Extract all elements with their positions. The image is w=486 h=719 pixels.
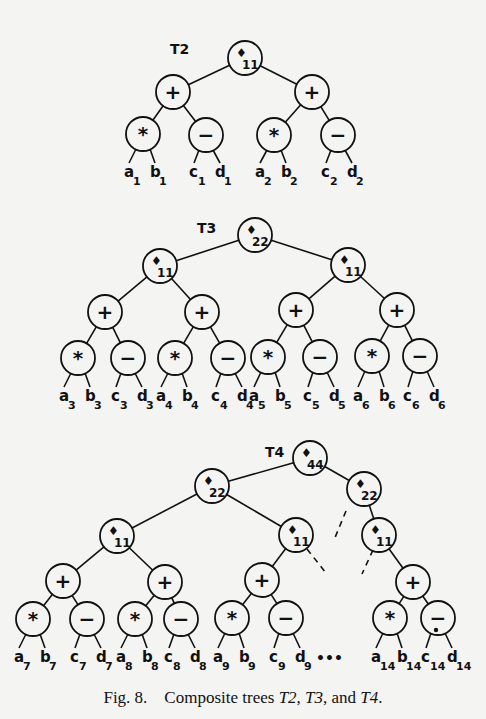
- leaf-c7: c: [70, 648, 79, 666]
- leaf-subscript: 3: [68, 399, 76, 412]
- caption-t3: T3: [305, 688, 323, 707]
- leaf-subscript: 5: [284, 399, 292, 412]
- minus-node-symbol: −: [173, 607, 190, 631]
- caption-sep: , and: [323, 688, 360, 707]
- leaf-subscript: 3: [120, 399, 128, 412]
- leaf-c14: c: [421, 648, 430, 666]
- leaf-subscript: 7: [105, 660, 113, 673]
- leaf-subscript: 7: [23, 660, 31, 673]
- leaf-subscript: 14: [406, 660, 422, 673]
- plus-node-symbol: +: [405, 570, 422, 594]
- leaf-c9: c: [269, 648, 278, 666]
- leaf-c1: c: [189, 163, 198, 181]
- leaf-subscript: 5: [312, 399, 320, 412]
- leaf-subscript: 14: [456, 660, 472, 673]
- multiply-node-symbol: *: [263, 345, 274, 369]
- minus-node-symbol: −: [120, 346, 137, 370]
- multiply-node-symbol: *: [367, 344, 378, 368]
- tree-label: T3: [197, 220, 216, 236]
- caption-end: .: [378, 688, 382, 707]
- plus-node-symbol: +: [194, 300, 211, 324]
- tree-label: T4: [265, 444, 285, 460]
- leaf-c2: c: [321, 163, 330, 181]
- leaf-c8: c: [164, 648, 173, 666]
- phi-index: 11: [345, 265, 362, 279]
- leaf-subscript: 1: [224, 175, 232, 188]
- leaf-subscript: 2: [290, 175, 298, 188]
- minus-node-symbol: −: [312, 345, 329, 369]
- leaf-subscript: 7: [49, 660, 57, 673]
- leaf-subscript: 8: [151, 660, 159, 673]
- caption-sep: ,: [297, 688, 306, 707]
- phi-index: 11: [242, 58, 259, 72]
- leaf-subscript: 2: [356, 175, 364, 188]
- phi-index: 44: [307, 458, 324, 472]
- multiply-node-symbol: *: [170, 346, 181, 370]
- multiply-node-symbol: *: [28, 607, 39, 631]
- plus-node-symbol: +: [157, 570, 174, 594]
- leaf-subscript: 9: [248, 660, 256, 673]
- multiply-node-symbol: *: [138, 122, 149, 146]
- leaf-subscript: 4: [191, 399, 199, 412]
- leaf-subscript: 9: [304, 660, 312, 673]
- multiply-node-symbol: *: [73, 346, 84, 370]
- leaf-subscript: 1: [159, 175, 167, 188]
- leaf-subscript: 1: [133, 175, 141, 188]
- multiply-node-symbol: *: [385, 606, 396, 630]
- phi-index: 22: [209, 486, 226, 500]
- leaf-subscript: 6: [362, 399, 370, 412]
- tree-label: T2: [170, 41, 189, 57]
- minus-node-symbol: −: [412, 344, 429, 368]
- caption-prefix: Fig. 8.: [103, 688, 147, 707]
- phi-index: 11: [376, 535, 393, 549]
- caption-t4: T4: [360, 688, 378, 707]
- figure-caption: Fig. 8. Composite trees T2, T3, and T4.: [0, 688, 486, 708]
- leaf-subscript: 14: [430, 660, 446, 673]
- leaf-subscript: 8: [125, 660, 133, 673]
- leaf-subscript: 8: [199, 660, 207, 673]
- leaf-subscript: 6: [412, 399, 420, 412]
- leaf-subscript: 4: [220, 399, 228, 412]
- phi-index: 22: [361, 489, 378, 503]
- leaf-subscript: 9: [278, 660, 286, 673]
- composite-trees-figure: T2♦11+*−a1b1c1d1+*−a2b2c2d2T3♦22♦11♦11+*…: [0, 0, 486, 719]
- plus-node-symbol: +: [389, 298, 406, 322]
- minus-node-symbol: −: [79, 607, 96, 631]
- caption-text: Composite trees: [164, 688, 278, 707]
- plus-node-symbol: +: [165, 80, 182, 104]
- leaf-c3: c: [111, 387, 120, 405]
- plus-node-symbol: +: [55, 569, 72, 593]
- leaf-c4: c: [211, 387, 220, 405]
- leaf-subscript: 9: [222, 660, 230, 673]
- leaf-subscript: 7: [79, 660, 87, 673]
- minus-node-symbol: −: [220, 346, 237, 370]
- leaf-subscript: 2: [330, 175, 338, 188]
- leaf-subscript: 8: [173, 660, 181, 673]
- leaf-subscript: 3: [146, 399, 154, 412]
- leaf-c5: c: [303, 387, 312, 405]
- minus-node-symbol: −: [278, 606, 295, 630]
- leaf-subscript: 6: [438, 399, 446, 412]
- minus-node-symbol: −: [198, 123, 215, 147]
- multiply-node-symbol: *: [269, 123, 280, 147]
- minus-node-symbol: −: [430, 606, 447, 630]
- plus-node-symbol: +: [304, 80, 321, 104]
- phi-index: 11: [157, 266, 174, 280]
- multiply-node-symbol: *: [227, 606, 238, 630]
- plus-node-symbol: +: [97, 300, 114, 324]
- leaf-subscript: 1: [198, 175, 206, 188]
- phi-index: 11: [293, 535, 310, 549]
- leaf-subscript: 3: [94, 399, 102, 412]
- leaf-subscript: 5: [338, 399, 346, 412]
- phi-index: 22: [252, 235, 269, 249]
- minus-node-symbol: −: [330, 123, 347, 147]
- leaf-c6: c: [403, 387, 412, 405]
- leaf-subscript: 2: [264, 175, 272, 188]
- dot-mark: [434, 628, 438, 632]
- multiply-node-symbol: *: [130, 607, 141, 631]
- leaf-subscript: 6: [388, 399, 396, 412]
- leaf-subscript: 5: [258, 399, 266, 412]
- ellipsis: •••: [316, 650, 343, 666]
- plus-node-symbol: +: [288, 298, 305, 322]
- leaf-subscript: 4: [165, 399, 173, 412]
